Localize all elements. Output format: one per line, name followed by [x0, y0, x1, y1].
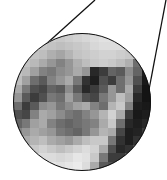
lens-border: [13, 33, 151, 171]
